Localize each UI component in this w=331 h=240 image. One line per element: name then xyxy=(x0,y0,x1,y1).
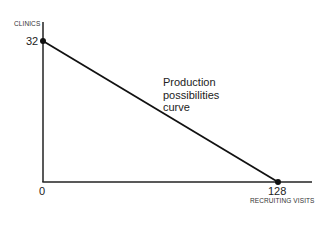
curve-label-line-1: Production xyxy=(163,76,219,89)
x-axis-title: RECRUITING VISITS xyxy=(250,197,315,204)
y-tick-32: 32 xyxy=(26,35,38,47)
curve-label-line-3: curve xyxy=(163,101,219,114)
curve-label-line-2: possibilities xyxy=(163,89,219,102)
y-axis-title: CLINICS xyxy=(14,20,40,27)
production-possibilities-curve xyxy=(43,41,278,182)
curve-label: Production possibilities curve xyxy=(163,76,219,114)
y-intercept-point xyxy=(40,38,46,44)
x-tick-0: 0 xyxy=(39,185,45,197)
x-tick-128: 128 xyxy=(268,185,286,197)
